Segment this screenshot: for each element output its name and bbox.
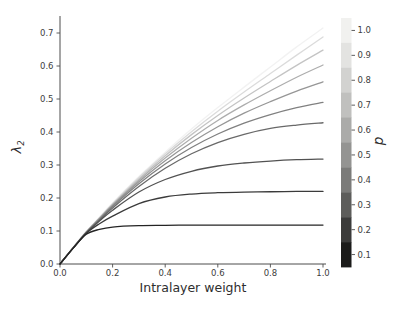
x-tick-label: 0.0 xyxy=(53,268,67,278)
y-tick-label: 0.1 xyxy=(40,226,54,236)
colorbar-block xyxy=(341,68,352,93)
y-tick-label: 0.4 xyxy=(40,127,54,137)
colorbar-tick-label: 0.1 xyxy=(358,250,372,260)
colorbar-tick-label: 0.8 xyxy=(358,75,372,85)
y-tick-label: 0.2 xyxy=(40,193,54,203)
x-axis-label: Intralayer weight xyxy=(140,280,247,295)
colorbar-block xyxy=(341,43,352,68)
colorbar xyxy=(341,18,355,267)
series-line-p0.2 xyxy=(60,191,323,264)
y-tick-label: 0.5 xyxy=(40,94,54,104)
series-line-p0.8 xyxy=(60,50,323,264)
series-line-p0.6 xyxy=(60,82,323,264)
colorbar-tick-label: 0.6 xyxy=(358,125,372,135)
series-line-p0.7 xyxy=(60,65,323,264)
colorbar-tick-label: 0.2 xyxy=(358,225,372,235)
y-axis-label: λ2 xyxy=(9,140,26,154)
colorbar-tick-label: 0.5 xyxy=(358,150,372,160)
colorbar-block xyxy=(341,143,352,168)
colorbar-tick-label: 0.3 xyxy=(358,200,372,210)
colorbar-block xyxy=(341,217,352,242)
series-line-p1.0 xyxy=(60,28,323,264)
line-chart-svg: 0.00.20.40.60.81.00.00.10.20.30.40.50.60… xyxy=(0,0,406,312)
series-line-p0.3 xyxy=(60,159,323,264)
x-tick-label: 1.0 xyxy=(316,268,330,278)
colorbar-block xyxy=(341,167,352,192)
colorbar-block xyxy=(341,242,352,267)
y-tick-label: 0.6 xyxy=(40,61,54,71)
colorbar-block xyxy=(341,192,352,217)
y-tick-label: 0.0 xyxy=(40,259,54,269)
y-tick-label: 0.3 xyxy=(40,160,54,170)
curves-group xyxy=(60,28,323,264)
series-line-p0.4 xyxy=(60,123,323,264)
colorbar-tick-label: 1.0 xyxy=(358,25,372,35)
colorbar-tick-label: 0.4 xyxy=(358,175,372,185)
colorbar-block xyxy=(341,118,352,143)
colorbar-label: p xyxy=(370,137,386,147)
y-tick-label: 0.7 xyxy=(40,28,54,38)
x-tick-label: 0.8 xyxy=(264,268,278,278)
series-line-p0.1 xyxy=(60,225,323,264)
colorbar-block xyxy=(341,18,352,43)
figure: 0.00.20.40.60.81.00.00.10.20.30.40.50.60… xyxy=(0,0,406,312)
colorbar-tick-label: 0.9 xyxy=(358,50,372,60)
x-tick-label: 0.6 xyxy=(211,268,225,278)
colorbar-block xyxy=(341,93,352,118)
x-tick-label: 0.4 xyxy=(158,268,172,278)
x-tick-label: 0.2 xyxy=(106,268,120,278)
colorbar-tick-label: 0.7 xyxy=(358,100,372,110)
